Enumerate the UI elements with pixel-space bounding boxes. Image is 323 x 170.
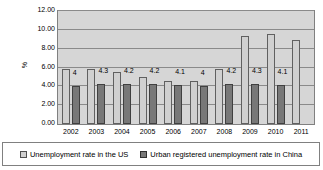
bar-us-2002[interactable]	[62, 69, 70, 124]
legend-entry-cn[interactable]: Urban registered unemployment rate in Ch…	[140, 150, 302, 159]
x-axis-tick-labels: 2002200320042005200620072008200920102011	[57, 126, 315, 138]
bar-us-2005[interactable]	[139, 77, 147, 124]
y-axis-tick: 8.00	[26, 44, 55, 52]
bar-us-2011[interactable]	[292, 40, 300, 124]
legend-label: Urban registered unemployment rate in Ch…	[150, 150, 302, 159]
x-axis-tick-2006: 2006	[160, 126, 186, 138]
bar-value-label: 4.1	[175, 68, 185, 76]
x-axis-tick-2011: 2011	[288, 126, 314, 138]
bar-value-label: 4.3	[252, 67, 262, 75]
x-axis-tick-2007: 2007	[186, 126, 212, 138]
bar-group	[288, 11, 314, 124]
bar-cn-2005[interactable]	[149, 84, 157, 124]
bar-us-2003[interactable]	[87, 69, 95, 124]
bar-group: 4.2	[135, 11, 161, 124]
bars-layer: 44.34.24.24.144.24.34.1	[58, 11, 314, 124]
bar-value-label: 4	[201, 69, 205, 77]
bar-group: 4.3	[237, 11, 263, 124]
plot-area: 44.34.24.24.144.24.34.1	[57, 10, 315, 125]
bar-us-2008[interactable]	[215, 69, 223, 124]
bar-cn-2003[interactable]	[97, 84, 105, 124]
bar-us-2010[interactable]	[267, 34, 275, 124]
bar-group: 4	[58, 11, 84, 124]
unemployment-rate-bar-chart: % 12.0010.008.006.004.002.000.00 44.34.2…	[0, 0, 323, 170]
bar-cn-2006[interactable]	[174, 85, 182, 124]
bar-us-2009[interactable]	[241, 36, 249, 124]
bar-value-label: 4.2	[226, 67, 236, 75]
bar-cn-2010[interactable]	[277, 85, 285, 124]
y-axis-tick: 6.00	[26, 63, 55, 71]
bar-cn-2007[interactable]	[200, 86, 208, 124]
bar-us-2004[interactable]	[113, 72, 121, 124]
bar-value-label: 4	[73, 69, 77, 77]
bar-cn-2009[interactable]	[251, 84, 259, 124]
y-axis-tick-labels: 12.0010.008.006.004.002.000.00	[26, 5, 55, 130]
x-axis-tick-2009: 2009	[237, 126, 263, 138]
plot-wrapper: % 12.0010.008.006.004.002.000.00 44.34.2…	[0, 0, 323, 140]
x-axis-tick-2004: 2004	[109, 126, 135, 138]
bar-group: 4.2	[212, 11, 238, 124]
bar-group: 4.2	[109, 11, 135, 124]
y-axis-tick: 12.00	[26, 6, 55, 14]
x-axis-tick-2003: 2003	[84, 126, 110, 138]
x-axis-tick-2005: 2005	[135, 126, 161, 138]
bar-group: 4	[186, 11, 212, 124]
bar-value-label: 4.1	[278, 68, 288, 76]
legend-swatch-cn-icon	[140, 151, 147, 158]
bar-cn-2008[interactable]	[225, 84, 233, 124]
y-axis-tick: 2.00	[26, 100, 55, 108]
bar-value-label: 4.3	[98, 67, 108, 75]
bar-cn-2004[interactable]	[123, 84, 131, 124]
legend-swatch-us-icon	[20, 151, 27, 158]
y-axis-tick: 4.00	[26, 81, 55, 89]
legend-entry-us[interactable]: Unemployment rate in the US	[20, 150, 128, 159]
x-axis-tick-2002: 2002	[58, 126, 84, 138]
bar-value-label: 4.2	[124, 67, 134, 75]
bar-group: 4.3	[84, 11, 110, 124]
bar-cn-2002[interactable]	[72, 86, 80, 124]
bar-us-2006[interactable]	[164, 81, 172, 124]
x-axis-tick-2010: 2010	[263, 126, 289, 138]
bar-group: 4.1	[263, 11, 289, 124]
bar-value-label: 4.2	[150, 67, 160, 75]
x-axis-tick-2008: 2008	[212, 126, 238, 138]
legend-label: Unemployment rate in the US	[30, 150, 128, 159]
bar-group: 4.1	[160, 11, 186, 124]
y-axis-tick: 10.00	[26, 25, 55, 33]
bar-us-2007[interactable]	[190, 81, 198, 124]
chart-legend: Unemployment rate in the USUrban registe…	[2, 142, 320, 166]
y-axis-tick: 0.00	[26, 119, 55, 127]
